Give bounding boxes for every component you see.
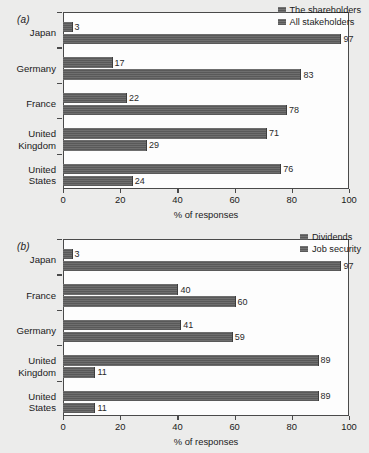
bar-value-label: 59 [235, 332, 245, 342]
bar-value-label: 40 [180, 285, 190, 295]
x-axis-tick [120, 416, 121, 420]
bar-value-label: 11 [97, 367, 106, 377]
bar-value-label: 11 [97, 403, 106, 413]
x-axis-tick-label: 40 [172, 194, 182, 205]
panel-b-bars: 3974060415989118911 [63, 239, 349, 416]
bar [63, 105, 287, 116]
bar [63, 69, 301, 80]
x-axis-tick [349, 189, 350, 193]
category-label: France [26, 290, 56, 301]
category-label: France [26, 98, 56, 109]
category-tick [57, 12, 62, 13]
bar [63, 355, 319, 366]
bar [63, 296, 236, 307]
bar-value-label: 3 [75, 22, 80, 32]
panel-b-x-axis-title: % of responses [63, 436, 349, 447]
x-axis-tick [120, 189, 121, 193]
category-label: United Kingdom [18, 128, 56, 151]
panel-b-x-axis: % of responses 020406080100 [63, 416, 349, 452]
bar [63, 367, 95, 378]
category-label: Japan [30, 254, 56, 265]
bar-value-label: 89 [321, 355, 331, 365]
bar [63, 164, 281, 175]
x-axis-tick [235, 189, 236, 193]
bar [63, 261, 341, 272]
legend-label: All stakeholders [290, 17, 355, 27]
bar-value-label: 29 [149, 140, 159, 150]
panel-b: (b) JapanFranceGermanyUnited KingdomUnit… [0, 227, 369, 453]
category-label: United Kingdom [18, 355, 56, 378]
panel-a-bars: 3971783227871297624 [63, 12, 349, 189]
x-axis-tick [292, 416, 293, 420]
bar [63, 34, 341, 45]
bar-value-label: 76 [283, 164, 293, 174]
panel-b-category-axis: JapanFranceGermanyUnited KingdomUnited S… [0, 239, 61, 416]
bar [63, 57, 113, 68]
panel-a-x-axis: % of responses 020406080100 [63, 189, 349, 225]
legend-label: Job security [312, 244, 361, 254]
bar-value-label: 89 [321, 391, 331, 401]
x-axis-tick [349, 416, 350, 420]
bar [63, 128, 267, 139]
x-axis-tick-label: 80 [287, 421, 297, 432]
category-label: United States [28, 163, 56, 186]
category-tick [57, 154, 62, 155]
panel-b-legend: DividendsJob security [300, 232, 361, 254]
bar-value-label: 78 [289, 105, 299, 115]
x-axis-tick-label: 100 [341, 421, 357, 432]
legend-swatch-icon [300, 246, 308, 252]
x-axis-tick [292, 189, 293, 193]
legend-label: Dividends [312, 232, 352, 242]
legend-swatch-icon [278, 19, 286, 25]
x-axis-tick-label: 60 [229, 421, 239, 432]
bar-value-label: 60 [238, 297, 248, 307]
legend-item[interactable]: Job security [300, 244, 361, 254]
category-tick [57, 345, 62, 346]
category-label: Germany [17, 63, 56, 74]
legend-label: The shareholders [290, 5, 362, 15]
legend-item[interactable]: Dividends [300, 232, 352, 242]
bar-value-label: 17 [115, 58, 125, 68]
bar [63, 140, 147, 151]
legend-item[interactable]: All stakeholders [278, 17, 355, 27]
category-tick [57, 118, 62, 119]
category-tick [57, 381, 62, 382]
legend-item[interactable]: The shareholders [278, 5, 362, 15]
panel-a-legend: The shareholdersAll stakeholders [278, 5, 362, 27]
x-axis-tick [63, 189, 64, 193]
x-axis-tick-label: 20 [115, 421, 125, 432]
bar-value-label: 97 [343, 261, 353, 271]
bar-value-label: 71 [269, 128, 279, 138]
x-axis-tick-label: 60 [229, 194, 239, 205]
figure: (a) JapanGermanyFranceUnited KingdomUnit… [0, 0, 369, 453]
x-axis-tick-label: 80 [287, 194, 297, 205]
x-axis-tick-label: 0 [60, 194, 65, 205]
bar [63, 403, 95, 414]
bar-value-label: 41 [183, 320, 193, 330]
category-label: Japan [30, 27, 56, 38]
bar [63, 93, 127, 104]
bar [63, 391, 319, 402]
x-axis-tick [63, 416, 64, 420]
bar [63, 320, 181, 331]
panel-a-category-axis: JapanGermanyFranceUnited KingdomUnited S… [0, 12, 61, 189]
panel-a-x-axis-title: % of responses [63, 209, 349, 220]
bar [63, 176, 133, 187]
category-label: Germany [17, 325, 56, 336]
x-axis-tick [177, 189, 178, 193]
category-label: United States [28, 390, 56, 413]
x-axis-tick-label: 40 [172, 421, 182, 432]
bar-value-label: 24 [135, 176, 145, 186]
x-axis-tick-label: 100 [341, 194, 357, 205]
category-tick [57, 274, 62, 275]
x-axis-tick-label: 20 [115, 194, 125, 205]
bar-value-label: 3 [75, 249, 80, 259]
bar [63, 332, 233, 343]
bar [63, 284, 178, 295]
legend-swatch-icon [278, 7, 286, 13]
x-axis-tick [235, 416, 236, 420]
bar-value-label: 97 [343, 34, 353, 44]
x-axis-tick [177, 416, 178, 420]
bar-value-label: 83 [303, 70, 313, 80]
category-tick [57, 83, 62, 84]
